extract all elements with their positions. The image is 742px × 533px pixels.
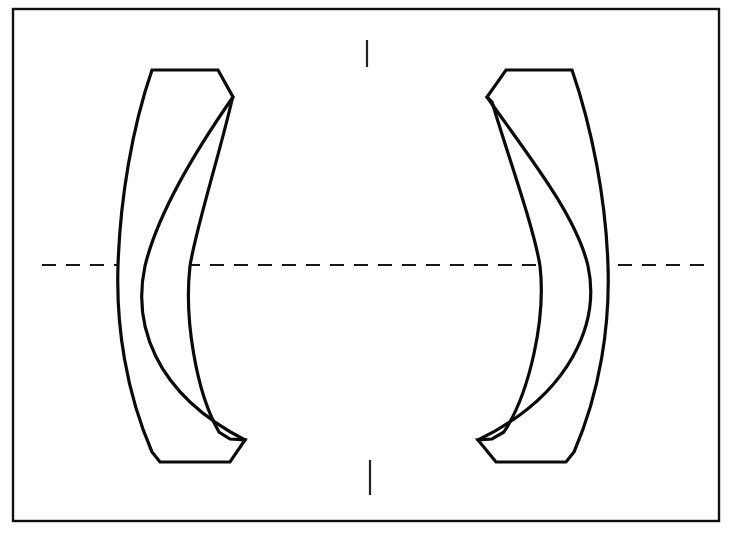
lens-diagram-figure <box>0 0 742 533</box>
lens-diagram-canvas <box>0 0 742 533</box>
page-background <box>0 0 742 533</box>
